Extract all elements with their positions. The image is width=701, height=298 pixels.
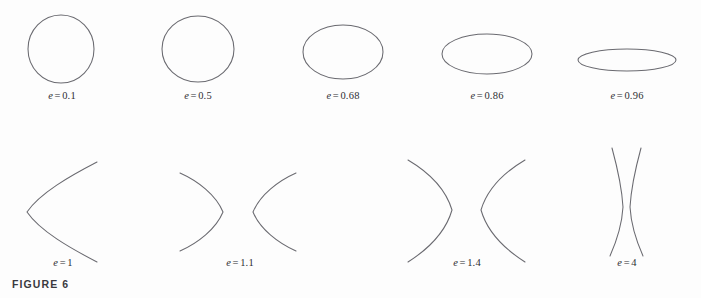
hyperbola-e-1-1-right-branch <box>253 173 296 251</box>
label-e-0-86: e=0.86 <box>470 90 503 101</box>
label-value: 4 <box>631 257 636 268</box>
label-value: 0.5 <box>198 90 212 101</box>
label-equals: = <box>331 90 340 101</box>
hyperbola-e-4-left-branch <box>610 148 623 256</box>
hyperbola-e-4-right-branch <box>630 148 643 256</box>
label-value: 0.68 <box>340 90 359 101</box>
label-e-4: e=4 <box>617 257 636 268</box>
label-e-0-96: e=0.96 <box>610 90 643 101</box>
ellipse-e-0-68 <box>303 25 383 79</box>
label-equals: = <box>58 257 67 268</box>
label-value: 0.1 <box>62 90 76 101</box>
label-value: 0.96 <box>624 90 643 101</box>
label-equals: = <box>53 90 62 101</box>
label-e-0-1: e=0.1 <box>48 90 76 101</box>
label-value: 1.4 <box>467 257 481 268</box>
label-equals: = <box>615 90 624 101</box>
ellipse-e-0-1 <box>28 15 94 83</box>
label-equals: = <box>622 257 631 268</box>
ellipse-e-0-96 <box>578 49 676 71</box>
label-e-0-5: e=0.5 <box>184 90 212 101</box>
hyperbola-e-1-4-left-branch <box>408 160 452 262</box>
conic-curves-canvas <box>0 0 701 298</box>
label-equals: = <box>231 257 240 268</box>
conic-sections-figure: e=0.1 e=0.5 e=0.68 e=0.86 e=0.96 e=1 e=1… <box>0 0 701 298</box>
ellipse-e-0-86 <box>442 34 532 74</box>
label-e-1-4: e=1.4 <box>453 257 481 268</box>
figure-caption: FIGURE 6 <box>12 278 69 290</box>
label-equals: = <box>458 257 467 268</box>
label-e-0-68: e=0.68 <box>326 90 359 101</box>
hyperbola-e-1-4-right-branch <box>481 160 525 262</box>
hyperbola-e-1-1-left-branch <box>180 173 223 251</box>
label-e-1-1: e=1.1 <box>226 257 254 268</box>
label-e-1: e=1 <box>53 257 72 268</box>
label-equals: = <box>189 90 198 101</box>
label-value: 0.86 <box>484 90 503 101</box>
label-value: 1 <box>67 257 72 268</box>
label-equals: = <box>475 90 484 101</box>
label-value: 1.1 <box>240 257 254 268</box>
ellipse-e-0-5 <box>162 16 234 82</box>
parabola-e-1 <box>27 162 97 262</box>
